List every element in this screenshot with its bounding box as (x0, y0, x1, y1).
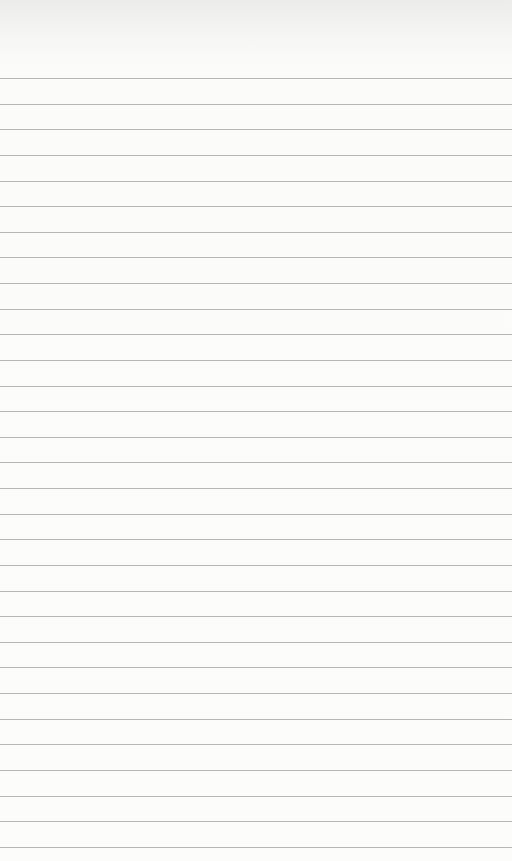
ruled-line (0, 821, 512, 822)
ruled-line (0, 283, 512, 284)
ruled-line (0, 386, 512, 387)
ruled-line (0, 309, 512, 310)
ruled-line (0, 129, 512, 130)
ruled-line (0, 411, 512, 412)
ruled-line (0, 257, 512, 258)
ruled-line (0, 591, 512, 592)
ruled-line (0, 770, 512, 771)
lined-paper (0, 0, 512, 861)
ruled-line (0, 539, 512, 540)
ruled-line (0, 744, 512, 745)
ruled-line (0, 155, 512, 156)
ruled-line (0, 488, 512, 489)
ruled-line (0, 104, 512, 105)
ruled-line (0, 462, 512, 463)
ruled-line (0, 796, 512, 797)
ruled-line (0, 206, 512, 207)
ruled-line (0, 437, 512, 438)
ruled-line (0, 232, 512, 233)
ruled-line (0, 667, 512, 668)
ruled-line (0, 693, 512, 694)
ruled-line (0, 847, 512, 848)
ruled-line (0, 78, 512, 79)
ruled-line (0, 642, 512, 643)
ruled-line (0, 514, 512, 515)
ruled-line (0, 181, 512, 182)
ruled-line (0, 334, 512, 335)
ruled-line (0, 719, 512, 720)
ruled-line (0, 360, 512, 361)
ruled-line (0, 565, 512, 566)
ruled-line (0, 616, 512, 617)
